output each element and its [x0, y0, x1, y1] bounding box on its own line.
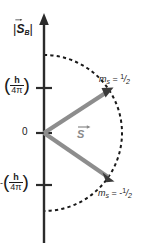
spin-down-arrowhead-icon [103, 173, 115, 183]
spin-vector-diagram [0, 0, 155, 248]
tick-positive-numerator: h [10, 76, 23, 85]
spin-down-denominator: 2 [128, 192, 132, 199]
tick-positive-paren-close: ) [24, 74, 30, 95]
spin-up-vector-shaft [44, 92, 107, 133]
spin-up-m-symbol: m [99, 74, 107, 84]
spin-up-equals: = [110, 74, 120, 84]
tick-label-negative: -(h4π) [0, 173, 29, 193]
tick-negative-fraction: h4π [9, 173, 22, 193]
spin-down-quantum-number-label: ms = -1/2 [98, 187, 131, 199]
tick-positive-fraction: h4π [10, 76, 23, 96]
tick-negative-numerator: h [9, 173, 22, 182]
axis-title-symbol-group: S [16, 22, 24, 36]
spin-down-vector-shaft [44, 133, 108, 177]
spin-up-quantum-number-label: ms = 1/2 [99, 73, 129, 85]
spin-down-m-symbol: m [98, 188, 106, 198]
spin-down-equals: = [109, 188, 119, 198]
axis-arrowhead-icon [39, 13, 49, 25]
tick-negative-paren-close: ) [23, 171, 29, 192]
tick-positive-denominator: 4π [10, 85, 23, 95]
tick-label-zero: 0 [22, 126, 28, 137]
tick-negative-denominator: 4π [9, 182, 22, 192]
s-vector-label: S [77, 128, 84, 140]
spin-down-value-fraction: 1/2 [122, 187, 131, 199]
tick-label-positive: (h4π) [4, 76, 30, 96]
spin-up-value-fraction: 1/2 [120, 73, 129, 85]
axis-title: |SB| [13, 21, 33, 36]
axis-title-bar-right: | [29, 21, 32, 36]
axis-title-symbol: S [16, 22, 24, 36]
spin-up-denominator: 2 [126, 78, 130, 85]
